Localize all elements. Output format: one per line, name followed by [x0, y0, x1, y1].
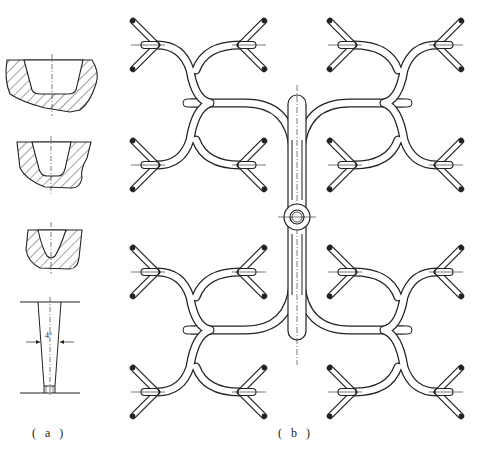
- panel-a-sections: [6, 54, 97, 396]
- panel-a-label: ( a ): [32, 426, 66, 441]
- basin-section-2: [17, 136, 91, 194]
- taper-angle-label: 4°: [45, 331, 52, 340]
- panel-b-runner-system: [131, 19, 464, 419]
- basin-section-1: [6, 54, 97, 116]
- panel-b-label: ( b ): [278, 426, 313, 441]
- technical-drawing: [0, 0, 478, 450]
- tapered-sprue: [20, 297, 80, 396]
- basin-section-3: [26, 222, 82, 274]
- central-sprue-boss: [278, 204, 316, 230]
